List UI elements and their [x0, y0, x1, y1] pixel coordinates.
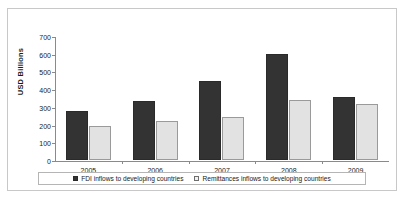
bar-remittances[interactable]	[289, 100, 311, 160]
bar-group	[55, 36, 122, 160]
x-axis-tick-mark	[122, 161, 123, 164]
bar-group	[255, 36, 322, 160]
y-axis-tick-label: 200	[29, 122, 51, 129]
y-axis-tick-label: 500	[29, 69, 51, 76]
legend-item-remittances[interactable]: Remittances inflows to developing countr…	[194, 175, 330, 182]
y-axis-title: USD Billions	[16, 32, 25, 112]
bar-fdi[interactable]	[133, 101, 155, 160]
x-axis-tick-mark	[255, 161, 256, 164]
bar-fdi[interactable]	[266, 54, 288, 160]
legend-item-fdi[interactable]: FDI inflows to developing countries	[73, 175, 183, 182]
bar-remittances[interactable]	[356, 104, 378, 160]
bar-remittances[interactable]	[89, 126, 111, 160]
clipped-header-strip	[0, 0, 405, 7]
bar-fdi[interactable]	[199, 81, 221, 160]
bar-remittances[interactable]	[222, 117, 244, 160]
filled-square-marker-icon	[73, 176, 78, 181]
chart-legend: FDI inflows to developing countries Remi…	[38, 172, 366, 185]
y-axis-tick-label: 300	[29, 104, 51, 111]
hollow-square-marker-icon	[194, 176, 199, 181]
x-axis-tick-mark	[189, 161, 190, 164]
legend-label-remittances: Remittances inflows to developing countr…	[202, 175, 330, 182]
y-axis-tick-label: 0	[29, 158, 51, 165]
bar-fdi[interactable]	[333, 97, 355, 160]
bar-remittances[interactable]	[156, 121, 178, 160]
chart-frame: USD Billions 0100200300400500600700 2005…	[7, 8, 397, 191]
bar-group	[122, 36, 189, 160]
bar-fdi[interactable]	[66, 111, 88, 160]
bar-group	[189, 36, 256, 160]
y-axis-tick-label: 100	[29, 140, 51, 147]
chart-plot-wrapper: USD Billions 0100200300400500600700 2005…	[8, 9, 396, 190]
bar-group	[322, 36, 389, 160]
y-axis-tick-mark	[52, 161, 55, 162]
x-axis-tick-mark	[322, 161, 323, 164]
y-axis-tick-label: 700	[29, 34, 51, 41]
y-axis-tick-label: 400	[29, 87, 51, 94]
legend-label-fdi: FDI inflows to developing countries	[81, 175, 183, 182]
x-axis-line	[55, 161, 389, 162]
plot-area: 0100200300400500600700 20052006200720082…	[55, 37, 389, 161]
y-axis-tick-label: 600	[29, 51, 51, 58]
